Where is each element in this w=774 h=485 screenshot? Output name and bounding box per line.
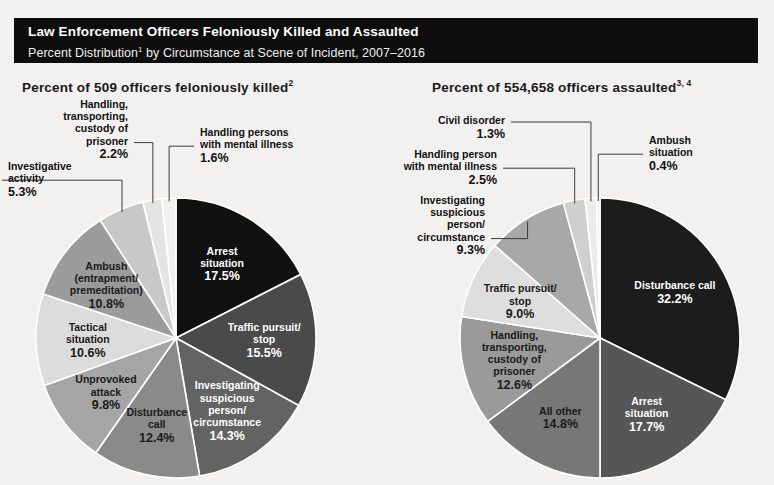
pie-callout-leader-line xyxy=(169,146,194,201)
banner-subtitle-pre: Percent Distribution xyxy=(28,46,138,60)
banner-subtitle-post: by Circumstance at Scene of Incident, 20… xyxy=(143,46,425,60)
pie-callout-label: Investigativeactivity5.3% xyxy=(8,160,72,199)
pie-slice-label: All other14.8% xyxy=(539,405,582,432)
pie-slice-label: Arrestsituation17.7% xyxy=(625,395,669,434)
pie-chart-assaulted-svg: Disturbance call32.2%Arrestsituation17.7… xyxy=(387,96,774,481)
banner-subtitle: Percent Distribution1 by Circumstance at… xyxy=(28,41,758,62)
panel-heading-killed-text: Percent of 509 officers feloniously kill… xyxy=(22,80,288,95)
pie-callout-leader-line xyxy=(503,168,575,203)
pie-slice-label: Tacticalsituation10.6% xyxy=(66,321,110,360)
pie-slice-label: Arrestsituation17.5% xyxy=(200,245,244,284)
pie-chart-killed-svg: Arrestsituation17.5%Traffic pursuit/stop… xyxy=(0,96,387,481)
pie-callout-label: Handling,transporting,custody ofprisoner… xyxy=(63,98,128,161)
pie-callout-leader-line xyxy=(598,154,643,201)
panel-heading-killed: Percent of 509 officers feloniously kill… xyxy=(22,78,293,95)
pie-callout-label: Handling personwith mental illness2.5% xyxy=(403,148,498,187)
header-banner: Law Enforcement Officers Feloniously Kil… xyxy=(14,18,758,63)
panel-heading-assaulted-text: Percent of 554,658 officers assaulted xyxy=(432,80,677,95)
chart-page: Law Enforcement Officers Feloniously Kil… xyxy=(0,0,774,485)
pie-chart-killed: Arrestsituation17.5%Traffic pursuit/stop… xyxy=(0,96,387,481)
pie-callout-leader-line xyxy=(134,143,153,203)
pie-callout-label: Investigatingsuspiciousperson/circumstan… xyxy=(417,194,485,257)
pie-callout-label: Ambushsituation0.4% xyxy=(649,134,693,173)
panel-heading-assaulted: Percent of 554,658 officers assaulted3, … xyxy=(432,78,692,95)
pie-callout-label: Handling personswith mental illness1.6% xyxy=(199,126,294,165)
pie-callout-leader-line xyxy=(511,122,591,201)
panel-heading-killed-footnote: 2 xyxy=(288,78,293,88)
banner-title: Law Enforcement Officers Feloniously Kil… xyxy=(28,23,758,41)
pie-chart-assaulted: Disturbance call32.2%Arrestsituation17.7… xyxy=(387,96,774,481)
panel-heading-assaulted-footnote: 3, 4 xyxy=(677,78,692,88)
pie-callout-label: Civil disorder1.3% xyxy=(438,114,505,141)
